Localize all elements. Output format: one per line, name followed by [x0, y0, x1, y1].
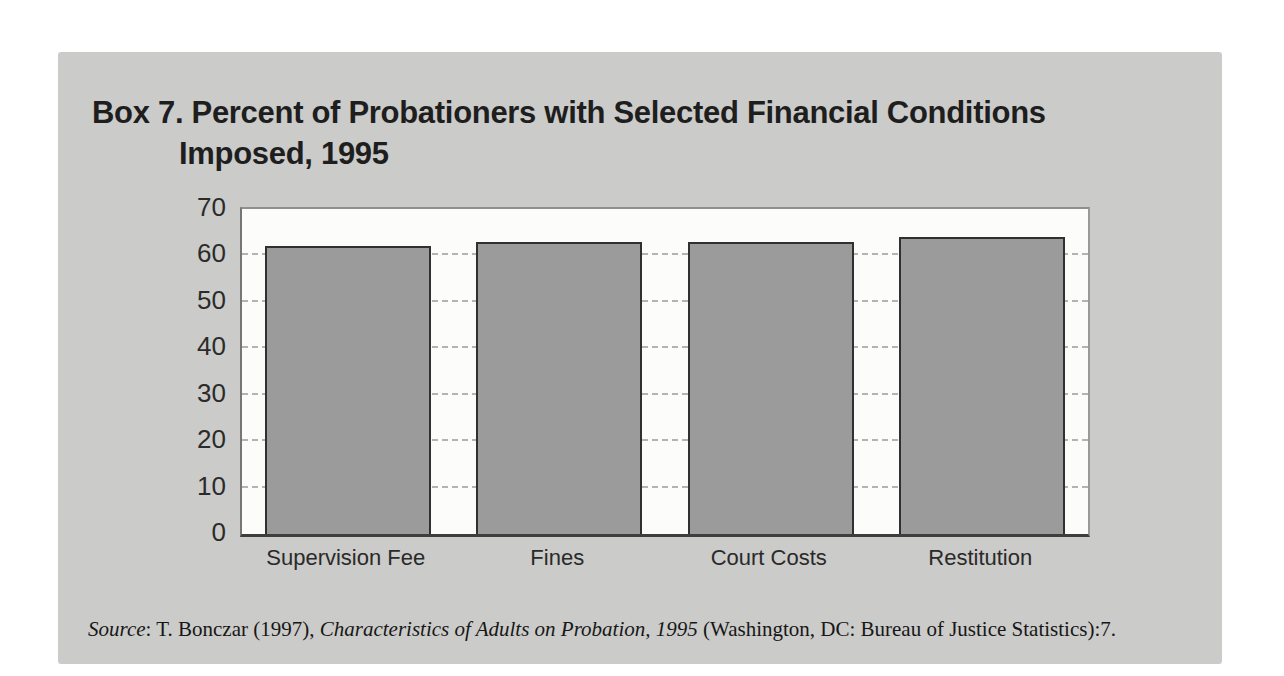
- figure-title-line1: Box 7. Percent of Probationers with Sele…: [92, 92, 1046, 133]
- y-tick-label-0: 0: [212, 519, 226, 545]
- x-category-label-fines: Fines: [452, 545, 664, 571]
- source-label: Source: [88, 617, 146, 641]
- source-work-title: Characteristics of Adults on Probation, …: [320, 617, 698, 641]
- x-category-label-restitution: Restitution: [875, 545, 1087, 571]
- bar-court-costs: [688, 242, 854, 535]
- bar-restitution: [899, 237, 1065, 534]
- bar-supervision-fee: [265, 246, 431, 534]
- x-category-label-court-costs: Court Costs: [663, 545, 875, 571]
- y-tick-label-30: 30: [197, 380, 226, 406]
- figure-title: Box 7. Percent of Probationers with Sele…: [92, 92, 1046, 174]
- y-tick-label-60: 60: [197, 240, 226, 266]
- y-tick-label-10: 10: [197, 473, 226, 499]
- x-axis-labels: Supervision FeeFinesCourt CostsRestituti…: [240, 545, 1086, 571]
- y-tick-label-40: 40: [197, 333, 226, 359]
- x-category-label-supervision-fee: Supervision Fee: [240, 545, 452, 571]
- figure-panel: Box 7. Percent of Probationers with Sele…: [58, 52, 1222, 664]
- source-publisher-text: (Washington, DC: Bureau of Justice Stati…: [698, 617, 1116, 641]
- y-tick-label-70: 70: [197, 194, 226, 220]
- bar-fines: [476, 242, 642, 535]
- figure-title-line2: Imposed, 1995: [179, 133, 1046, 174]
- plot-area: [240, 207, 1090, 537]
- y-axis-labels: 010203040506070: [128, 207, 226, 532]
- scanned-page: Box 7. Percent of Probationers with Sele…: [0, 0, 1284, 676]
- y-tick-label-50: 50: [197, 287, 226, 313]
- source-note: Source: T. Bonczar (1997), Characteristi…: [88, 615, 1213, 643]
- source-author-text: : T. Bonczar (1997),: [146, 617, 320, 641]
- y-tick-label-20: 20: [197, 426, 226, 452]
